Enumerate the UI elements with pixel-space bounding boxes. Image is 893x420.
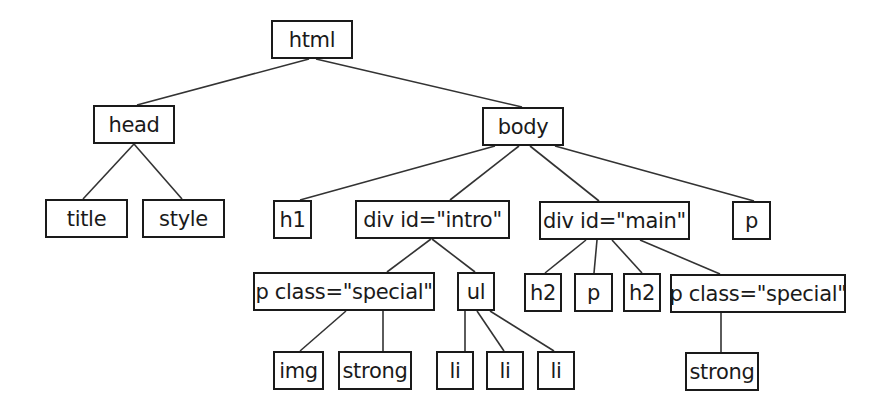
edge-pspecial1-img <box>300 311 346 351</box>
node-label: html <box>289 28 336 52</box>
edge-head-title <box>83 144 134 199</box>
node-pspecial2: p class="special" <box>670 274 846 313</box>
node-label: p <box>745 209 758 233</box>
node-label: p <box>587 281 600 305</box>
node-label: li <box>449 359 460 383</box>
edge-body-divintro <box>450 146 519 200</box>
edge-html-body <box>316 59 522 107</box>
node-label: style <box>159 207 208 231</box>
node-h1: h1 <box>273 200 312 239</box>
node-divintro: div id="intro" <box>355 200 510 239</box>
node-label: head <box>108 113 159 137</box>
node-label: strong <box>689 360 754 384</box>
node-label: div id="main" <box>543 209 686 233</box>
node-label: h2 <box>530 281 556 305</box>
node-li2: li <box>486 351 524 390</box>
node-label: p class="special" <box>669 282 846 306</box>
edge-divmain-h2b <box>612 240 642 273</box>
edge-divintro-pspecial1 <box>387 239 431 272</box>
edge-divmain-h2a <box>545 240 586 273</box>
node-p_top: p <box>732 201 771 240</box>
node-label: strong <box>342 359 407 383</box>
node-label: h1 <box>279 208 305 232</box>
node-p_main: p <box>574 273 613 312</box>
node-label: img <box>279 359 318 383</box>
node-h2a: h2 <box>524 273 562 312</box>
node-ul: ul <box>457 272 495 311</box>
edge-body-p_top <box>555 146 754 201</box>
node-label: body <box>498 115 549 139</box>
edge-head-style <box>134 144 182 199</box>
node-label: li <box>550 359 561 383</box>
node-divmain: div id="main" <box>539 201 690 240</box>
edge-divmain-pspecial2 <box>640 240 720 274</box>
node-label: p class="special" <box>255 280 432 304</box>
node-body: body <box>482 107 564 146</box>
node-h2b: h2 <box>623 273 661 312</box>
node-li1: li <box>436 351 474 390</box>
edge-divintro-ul <box>432 239 475 272</box>
edge-html-head <box>137 59 309 105</box>
node-strong1: strong <box>338 351 412 390</box>
node-strong2: strong <box>685 352 759 391</box>
node-head: head <box>93 105 175 144</box>
node-style: style <box>142 199 225 238</box>
node-label: li <box>499 359 510 383</box>
node-label: ul <box>467 280 486 304</box>
node-pspecial1: p class="special" <box>253 272 435 311</box>
edge-body-divmain <box>530 146 599 201</box>
node-img: img <box>273 351 324 390</box>
node-label: title <box>67 207 107 231</box>
node-html: html <box>271 20 353 59</box>
node-title: title <box>45 199 128 238</box>
node-label: div id="intro" <box>363 208 502 232</box>
edge-body-h1 <box>300 146 495 200</box>
node-li3: li <box>537 351 575 390</box>
node-label: h2 <box>629 281 655 305</box>
edge-divmain-p_main <box>594 240 597 273</box>
